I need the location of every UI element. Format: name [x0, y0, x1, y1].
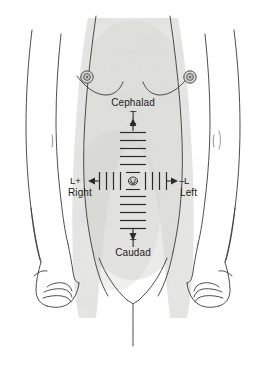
left-side-label: Left — [180, 188, 197, 198]
left-side-ticks — [146, 172, 167, 190]
left-side-arrowhead — [171, 177, 178, 184]
caudad-ticks — [120, 197, 146, 229]
orientation-axes-overlay — [0, 0, 266, 365]
anatomical-orientation-figure: Cephalad T + T Caudad L+ Right – L Left — [0, 0, 266, 365]
right-side-ticks — [100, 172, 121, 190]
caudad-label: Caudad — [115, 248, 151, 258]
cephalad-polarity-sign: + — [129, 118, 136, 130]
right-side-polarity: L+ — [70, 176, 81, 186]
umbilicus-marker — [126, 173, 140, 190]
right-side-label: Right — [68, 188, 92, 198]
cephalad-ticks — [120, 133, 146, 165]
left-side-polarity: L — [184, 176, 189, 186]
right-side-arrowhead — [88, 177, 95, 184]
cephalad-label: Cephalad — [111, 98, 155, 108]
